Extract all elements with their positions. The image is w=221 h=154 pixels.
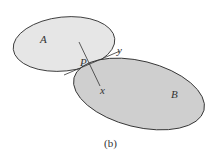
label-y: y bbox=[116, 44, 122, 56]
caption: (b) bbox=[104, 137, 117, 150]
label-b: B bbox=[171, 88, 178, 100]
label-p: P bbox=[79, 56, 87, 68]
diagram-canvas: A B P x y (b) bbox=[0, 0, 221, 154]
contact-diagram: A B P x y (b) bbox=[0, 0, 221, 154]
label-x: x bbox=[99, 84, 105, 96]
label-a: A bbox=[39, 33, 47, 45]
